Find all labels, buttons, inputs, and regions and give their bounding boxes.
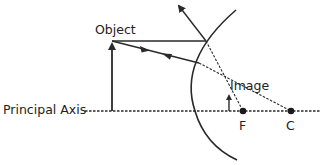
image-label: Image — [230, 80, 269, 93]
principal-axis-label: Principal Axis — [3, 104, 86, 117]
ray-diagram — [0, 0, 320, 165]
focal-point-dot — [240, 108, 247, 115]
reflected-ray-parallel — [179, 6, 206, 41]
center-of-curvature-dot — [288, 108, 295, 115]
focal-point-label: F — [239, 120, 246, 133]
center-of-curvature-label: C — [286, 120, 295, 133]
image-arrow-head — [226, 94, 232, 100]
incident-arrowhead — [140, 46, 150, 52]
object-label: Object — [95, 24, 136, 37]
incident-ray-to-center — [112, 41, 199, 63]
reflected-arrowhead — [162, 54, 172, 60]
